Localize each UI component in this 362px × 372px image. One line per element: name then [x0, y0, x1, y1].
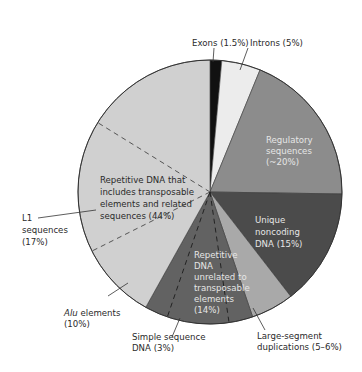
- label-l1: L1 sequences (17%): [22, 213, 71, 247]
- label-simple-sequence: Simple sequence DNA (3%): [132, 332, 208, 353]
- label-introns: Introns (5%): [250, 38, 303, 48]
- label-alu: Alu elements (10%): [63, 308, 123, 329]
- label-large-segment: Large-segment duplications (5–6%): [257, 331, 342, 352]
- label-exons: Exons (1.5%): [192, 38, 249, 48]
- pie-chart: Exons (1.5%) Introns (5%) Regulatory seq…: [0, 0, 362, 372]
